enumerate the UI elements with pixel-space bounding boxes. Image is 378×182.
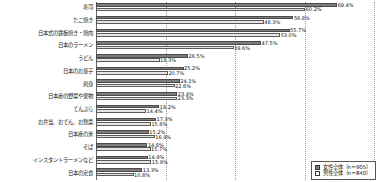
bar-female: 14.9% xyxy=(96,156,148,160)
bar-female: 69.4% xyxy=(96,3,337,7)
bar-male: 15.8% xyxy=(96,122,151,126)
category-row: 寿司69.4%60.2% xyxy=(96,2,374,15)
bar-value-label: 48.3% xyxy=(264,20,280,25)
bar-group: 25.2%20.7% xyxy=(96,66,374,79)
gridline-80 xyxy=(374,2,375,180)
bar-chart-root: 寿司69.4%60.2%たこ焼き56.8%48.3%日本式の鉄板焼き・焼肉55.… xyxy=(0,0,378,182)
bar-group: 69.4%60.2% xyxy=(96,2,374,15)
bar-value-label: 56.8% xyxy=(294,15,310,20)
bar-value-label: 18.3% xyxy=(160,58,176,63)
legend-swatch-male-icon xyxy=(315,171,320,176)
bar-value-label: 26.5% xyxy=(189,53,205,58)
bar-group: 18.2%14.4% xyxy=(96,104,374,117)
bar-value-label: 16.9% xyxy=(155,134,171,139)
bar-value-label: 60.2% xyxy=(306,7,322,12)
bar-female: 15.2% xyxy=(96,130,149,134)
category-label: 日本の定食 xyxy=(68,171,93,177)
bar-value-label: 15.8% xyxy=(151,121,167,126)
bar-group: 15.2%16.9% xyxy=(96,129,374,142)
bar-male: 16.9% xyxy=(96,135,155,139)
bar-value-label: 14.4% xyxy=(147,109,163,114)
bar-value-label: 22.6% xyxy=(175,83,191,88)
bar-value-label: 15.9% xyxy=(152,159,168,164)
category-row: 日本のラーメン47.5%39.6% xyxy=(96,40,374,53)
bar-male: 39.6% xyxy=(96,46,234,50)
category-row: 日本産の野菜や果物23.4%23.3% xyxy=(96,91,374,104)
bar-value-label: 15.7% xyxy=(151,147,167,152)
bar-value-label: 25.2% xyxy=(184,66,200,71)
category-label: 寿司 xyxy=(83,6,93,12)
bar-value-label: 10.8% xyxy=(134,172,150,177)
category-row: 日本のお菓子25.2%20.7% xyxy=(96,66,374,79)
bar-group: 55.7%53.0% xyxy=(96,27,374,40)
bar-value-label: 23.3% xyxy=(177,96,193,101)
plot-area: 寿司69.4%60.2%たこ焼き56.8%48.3%日本式の鉄板焼き・焼肉55.… xyxy=(96,2,374,180)
bar-group: 14.8%15.7% xyxy=(96,142,374,155)
category-label: うどん xyxy=(78,56,93,62)
category-row: てんぷら18.2%14.4% xyxy=(96,104,374,117)
legend-swatch-female-icon xyxy=(315,165,320,170)
bar-group: 23.4%23.3% xyxy=(96,91,374,104)
chart-legend: 女性全体（n＝905） 男性全体（n＝840） xyxy=(311,161,376,180)
bar-value-label: 20.7% xyxy=(168,70,184,75)
category-row: お弁当、おでん、お惣菜17.3%15.8% xyxy=(96,116,374,129)
bar-group: 56.8%48.3% xyxy=(96,15,374,28)
category-row: うどん26.5%18.3% xyxy=(96,53,374,66)
bar-value-label: 39.6% xyxy=(234,45,250,50)
bar-value-label: 47.5% xyxy=(262,41,278,46)
bar-male: 23.3% xyxy=(96,97,177,101)
category-row: 日本式の鉄板焼き・焼肉55.7%53.0% xyxy=(96,27,374,40)
bar-group: 17.3%15.8% xyxy=(96,116,374,129)
category-label: インスタントラーメンなど xyxy=(33,158,93,164)
category-label: そば xyxy=(83,145,93,151)
category-label: 日本産の米 xyxy=(68,133,93,139)
category-label: お弁当、おでん、お惣菜 xyxy=(38,120,93,126)
bar-male: 15.9% xyxy=(96,160,151,164)
bar-group: 26.5%18.3% xyxy=(96,53,374,66)
bar-male: 22.6% xyxy=(96,84,175,88)
bar-male: 20.7% xyxy=(96,71,168,75)
category-label: 日本のお菓子 xyxy=(63,69,93,75)
bar-female: 14.8% xyxy=(96,143,147,147)
category-label: てんぷら xyxy=(73,107,93,113)
category-label: たこ焼き xyxy=(73,18,93,24)
category-row: そば14.8%15.7% xyxy=(96,142,374,155)
bar-male: 53.0% xyxy=(96,33,280,37)
bar-male: 14.4% xyxy=(96,109,146,113)
bar-female: 17.3% xyxy=(96,118,156,122)
bar-group: 47.5%39.6% xyxy=(96,40,374,53)
category-row: 刺身24.1%22.6% xyxy=(96,78,374,91)
bar-group: 24.1%22.6% xyxy=(96,78,374,91)
bar-male: 10.8% xyxy=(96,173,134,177)
category-row: 日本産の米15.2%16.9% xyxy=(96,129,374,142)
legend-item-male: 男性全体（n＝840） xyxy=(315,171,371,176)
bar-female: 24.1% xyxy=(96,79,180,83)
bar-value-label: 53.0% xyxy=(281,32,297,37)
category-label: 日本産の野菜や果物 xyxy=(48,95,93,101)
legend-label-male: 男性全体（n＝840） xyxy=(323,171,371,176)
bar-female: 23.4% xyxy=(96,92,177,96)
bar-male: 15.7% xyxy=(96,147,151,151)
bar-male: 18.3% xyxy=(96,58,160,62)
bar-value-label: 69.4% xyxy=(338,2,354,7)
category-label: 日本のラーメン xyxy=(58,44,93,50)
category-label: 日本式の鉄板焼き・焼肉 xyxy=(38,31,93,37)
category-row: たこ焼き56.8%48.3% xyxy=(96,15,374,28)
bar-female: 55.7% xyxy=(96,29,290,33)
category-label: 刺身 xyxy=(83,82,93,88)
bar-male: 48.3% xyxy=(96,20,264,24)
bar-male: 60.2% xyxy=(96,8,305,12)
category-rows: 寿司69.4%60.2%たこ焼き56.8%48.3%日本式の鉄板焼き・焼肉55.… xyxy=(96,2,374,180)
